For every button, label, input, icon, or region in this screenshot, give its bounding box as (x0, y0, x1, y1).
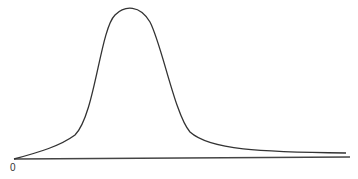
distribution-curve (14, 8, 346, 159)
origin-label: 0 (10, 162, 16, 173)
chart (0, 0, 358, 179)
x-axis (14, 157, 350, 159)
